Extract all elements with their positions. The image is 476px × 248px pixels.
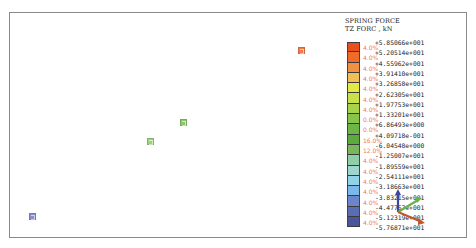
legend-value: +1.33201e+001	[375, 111, 424, 118]
axis-triad-icon	[384, 188, 434, 228]
color-bar-segment	[347, 135, 360, 145]
color-bar-segment	[347, 124, 360, 134]
legend-value: +1.97753e+001	[375, 101, 424, 108]
legend: SPRING FORCE TZ FORC , kN 4.0%4.0%4.0%4.…	[345, 17, 400, 33]
legend-title-line2: TZ FORC , kN	[345, 25, 400, 33]
spring-node-orange[interactable]	[298, 47, 305, 54]
legend-value: -1.89559e+001	[375, 163, 424, 170]
color-bar-segment	[347, 217, 360, 227]
spring-node-green-1[interactable]	[180, 119, 187, 126]
color-bar-segment	[347, 83, 360, 93]
legend-value: +5.20514e+001	[375, 49, 424, 56]
spring-node-blue[interactable]	[29, 213, 36, 220]
color-bar-segment	[347, 176, 360, 186]
spring-node-green-2[interactable]	[147, 138, 154, 145]
color-bar-segment	[347, 42, 360, 52]
legend-value: +4.55962e+001	[375, 60, 424, 67]
color-bar-segment	[347, 104, 360, 114]
color-bar-segment	[347, 186, 360, 196]
legend-value: -6.04548e+000	[375, 142, 424, 149]
color-bar	[347, 42, 360, 227]
color-bar-segment	[347, 145, 360, 155]
color-bar-segment	[347, 93, 360, 103]
color-bar-segment	[347, 114, 360, 124]
color-bar-segment	[347, 73, 360, 83]
legend-value: +2.62305e+001	[375, 91, 424, 98]
color-bar-segment	[347, 63, 360, 73]
legend-title-line1: SPRING FORCE	[345, 17, 400, 25]
legend-value: +3.26858e+001	[375, 80, 424, 87]
legend-value: +3.91410e+001	[375, 70, 424, 77]
color-bar-segment	[347, 166, 360, 176]
color-bar-segment	[347, 155, 360, 165]
color-bar-segment	[347, 207, 360, 217]
legend-value: +4.09718e-001	[375, 132, 424, 139]
legend-value: -1.25007e+001	[375, 152, 424, 159]
legend-value: -2.54111e+001	[375, 173, 424, 180]
color-bar-segment	[347, 52, 360, 62]
legend-value: +6.86493e+000	[375, 121, 424, 128]
legend-value: +5.85066e+001	[375, 39, 424, 46]
color-bar-segment	[347, 196, 360, 206]
